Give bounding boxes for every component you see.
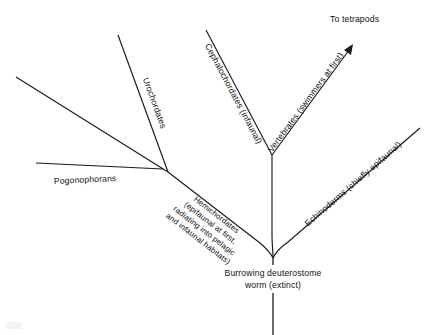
label-root-line1: Burrowing deuterostome — [225, 268, 322, 278]
label-echinoderms: Echinoderms (chiefly epifaunal) — [303, 139, 404, 228]
corner-artifact — [6, 322, 22, 329]
tree-canvas: To tetrapods Urochordates Cephalochordat… — [0, 0, 432, 335]
branch-pogonophorans — [36, 163, 163, 169]
branch-chordate-stem — [272, 155, 273, 258]
label-pogonophorans: Pogonophorans — [54, 173, 117, 186]
label-hemichordates-group: Hemichordates (epifaunal at first, radia… — [164, 187, 250, 266]
label-cephalochordates: Cephalochordates (infaunal) — [203, 42, 264, 146]
label-vertebrates: Vertebrates (swimmers at first) — [266, 50, 346, 154]
branch-upper-left — [16, 77, 168, 172]
label-urochordates: Urochordates — [141, 76, 169, 130]
label-root-line2: worm (extinct) — [244, 280, 301, 290]
label-to-tetrapods: To tetrapods — [330, 14, 379, 24]
phylogenetic-tree-diagram: To tetrapods Urochordates Cephalochordat… — [0, 0, 432, 335]
arrowhead-to-tetrapods — [344, 44, 353, 55]
